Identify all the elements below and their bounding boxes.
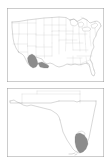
florida-keys xyxy=(69,153,77,155)
shaded-study-area-bottom xyxy=(75,133,88,153)
panel-florida[interactable] xyxy=(7,88,104,157)
panel-frame-top xyxy=(7,8,104,82)
panel-frame-bottom xyxy=(7,88,104,157)
us-map-svg xyxy=(7,8,104,82)
florida-map-svg xyxy=(7,88,104,157)
adjacent-state-borders xyxy=(22,91,80,103)
map-figure xyxy=(0,0,111,166)
panel-continental-us[interactable] xyxy=(7,8,104,82)
us-coastline xyxy=(12,17,101,76)
great-lakes xyxy=(70,19,98,31)
